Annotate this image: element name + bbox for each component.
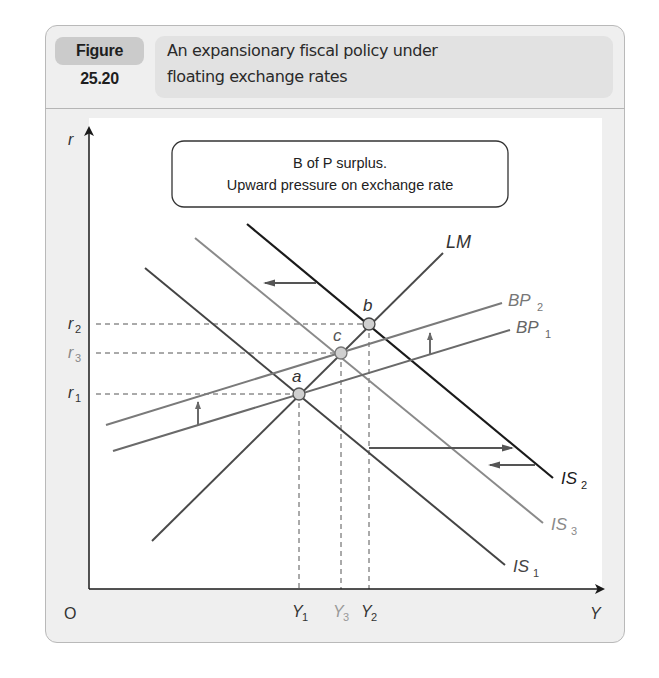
svg-text:LM: LM [446,232,471,252]
svg-text:IS: IS [561,469,578,488]
point-b [363,318,375,330]
svg-text:IS: IS [513,557,530,576]
r3-tick-label: r 3 [68,344,81,364]
r1-tick-label: r 1 [68,384,81,404]
svg-text:2: 2 [371,611,377,623]
callout-line2: Upward pressure on exchange rate [227,177,454,193]
y1-tick-label: Y 1 [292,603,308,623]
svg-text:2: 2 [537,301,543,313]
y-axis-label: r [68,131,74,148]
svg-text:3: 3 [75,352,81,364]
y3-tick-label: Y 3 [333,603,349,623]
svg-text:IS: IS [551,515,568,534]
r2-tick-label: r 2 [68,315,81,335]
origin-label: O [64,605,76,622]
chart: B of P surplus. Upward pressure on excha… [0,0,659,678]
svg-text:r: r [68,344,74,361]
point-a [293,388,305,400]
svg-text:BP: BP [508,291,531,310]
svg-text:1: 1 [75,392,81,404]
lm-label: LM [446,232,471,252]
point-a-label: a [292,367,301,386]
y2-tick-label: Y 2 [361,603,377,623]
svg-text:2: 2 [75,323,81,335]
svg-text:3: 3 [343,611,349,623]
svg-text:2: 2 [581,479,587,491]
callout-box: B of P surplus. Upward pressure on excha… [172,141,508,207]
x-axis-label: Y [590,605,602,622]
point-b-label: b [363,296,372,315]
svg-text:1: 1 [302,611,308,623]
svg-text:r: r [68,315,74,332]
point-c [335,347,347,359]
svg-text:1: 1 [545,328,551,340]
svg-text:r: r [68,384,74,401]
svg-text:3: 3 [571,525,577,537]
svg-text:BP: BP [516,318,539,337]
svg-text:1: 1 [533,567,539,579]
point-c-label: c [333,326,342,345]
callout-line1: B of P surplus. [293,155,387,171]
